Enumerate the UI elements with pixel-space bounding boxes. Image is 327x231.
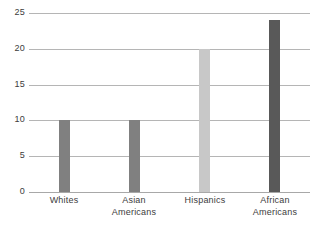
- x-axis-label-african-americans: African Americans: [240, 195, 310, 218]
- y-axis-tick-label-10: 10: [8, 114, 25, 124]
- y-axis-tick-label-20: 20: [8, 43, 25, 53]
- y-axis-tick-label-5: 5: [8, 150, 25, 160]
- x-axis-label-asian-americans: Asian Americans: [99, 195, 169, 218]
- bar-hispanics: [199, 49, 210, 192]
- y-axis-tick-label-0: 0: [8, 186, 25, 196]
- bar-series: [29, 13, 310, 192]
- bar-african-americans: [269, 20, 280, 192]
- x-axis-category-labels: WhitesAsian AmericansHispanicsAfrican Am…: [29, 195, 310, 231]
- y-axis-tick-label-25: 25: [8, 7, 25, 17]
- bar-asian-americans: [129, 120, 140, 192]
- bar-whites: [59, 120, 70, 192]
- y-axis-tick-label-15: 15: [8, 79, 25, 89]
- x-axis-label-whites: Whites: [29, 195, 99, 207]
- x-axis-label-hispanics: Hispanics: [170, 195, 240, 207]
- bar-chart: 0510152025 WhitesAsian AmericansHispanic…: [0, 0, 327, 231]
